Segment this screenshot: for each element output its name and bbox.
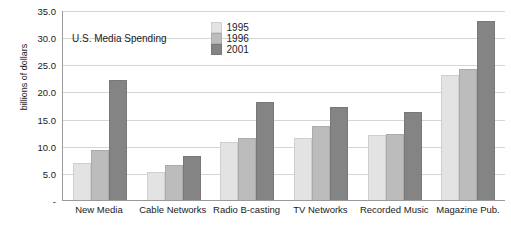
y-axis-tick-label: 35.0: [8, 6, 56, 17]
y-axis-tick-label: -: [8, 196, 56, 207]
bar-chart: billions of dollars 35.030.025.020.015.0…: [0, 0, 511, 228]
y-axis-tick-label: 20.0: [8, 87, 56, 98]
bar[interactable]: [477, 21, 495, 200]
y-axis-tick-label: 15.0: [8, 114, 56, 125]
bar[interactable]: [256, 102, 274, 200]
x-axis-tick-label: Recorded Music: [357, 204, 431, 215]
bar-group: [431, 11, 505, 200]
bar[interactable]: [238, 138, 256, 200]
bar[interactable]: [147, 172, 165, 200]
bar[interactable]: [441, 75, 459, 200]
bar[interactable]: [165, 165, 183, 200]
y-axis-tick-label: 30.0: [8, 33, 56, 44]
x-axis-tick-label: Radio B-casting: [210, 204, 284, 215]
y-axis-tick-label: 5.0: [8, 168, 56, 179]
bar[interactable]: [294, 138, 312, 200]
chart-legend: U.S. Media Spending 199519962001: [72, 22, 275, 55]
bar[interactable]: [330, 107, 348, 200]
bar[interactable]: [73, 163, 91, 200]
legend-label: 2001: [227, 44, 249, 55]
y-axis-tick-label: 10.0: [8, 141, 56, 152]
x-axis-tick-label: New Media: [62, 204, 136, 215]
legend-title: U.S. Media Spending: [72, 33, 167, 44]
legend-label: 1995: [227, 22, 249, 33]
bar-group: [284, 11, 358, 200]
bar[interactable]: [404, 112, 422, 200]
legend-swatch-icon: [211, 44, 222, 55]
bar[interactable]: [220, 142, 238, 200]
legend-item[interactable]: 1995: [211, 22, 249, 33]
x-axis-tick-label: TV Networks: [283, 204, 357, 215]
legend-swatch-icon: [211, 33, 222, 44]
bar[interactable]: [91, 150, 109, 200]
legend-swatch-icon: [211, 22, 222, 33]
x-axis-tick-label: Cable Networks: [136, 204, 210, 215]
x-axis-tick-labels: New MediaCable NetworksRadio B-castingTV…: [62, 204, 505, 215]
x-axis-tick-label: Magazine Pub.: [431, 204, 505, 215]
bar[interactable]: [386, 134, 404, 200]
bar[interactable]: [312, 126, 330, 200]
bar[interactable]: [109, 80, 127, 200]
bar-group: [358, 11, 432, 200]
legend-items: 199519962001: [211, 22, 275, 55]
legend-label: 1996: [227, 33, 249, 44]
bar[interactable]: [368, 135, 386, 200]
bar[interactable]: [183, 156, 201, 200]
bar[interactable]: [459, 69, 477, 200]
legend-item[interactable]: 1996: [211, 33, 249, 44]
y-axis-tick-label: 25.0: [8, 60, 56, 71]
legend-item[interactable]: 2001: [211, 44, 249, 55]
